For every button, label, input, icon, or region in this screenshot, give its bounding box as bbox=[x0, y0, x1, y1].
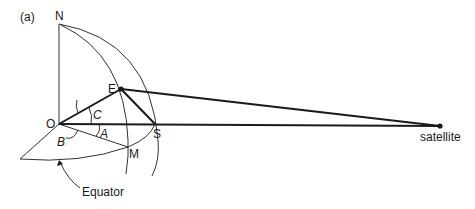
label-angle-A: A bbox=[99, 127, 108, 141]
label-N: N bbox=[55, 9, 64, 23]
geometry-diagram: (a) N E O S M satellite C A B Equator bbox=[0, 0, 475, 209]
angle-C-arc bbox=[76, 100, 78, 113]
label-M: M bbox=[129, 147, 139, 161]
line-OM bbox=[59, 124, 128, 147]
equator-pointer bbox=[60, 162, 80, 188]
label-equator: Equator bbox=[82, 185, 124, 199]
line-O-satellite bbox=[59, 124, 440, 126]
panel-label: (a) bbox=[20, 10, 35, 24]
label-E: E bbox=[108, 82, 116, 96]
inner-meridian-arc bbox=[61, 25, 128, 174]
label-O: O bbox=[46, 117, 55, 131]
label-satellite: satellite bbox=[420, 130, 461, 144]
line-E-satellite bbox=[121, 89, 440, 126]
satellite-dot bbox=[437, 123, 442, 128]
equator-arrowhead-icon bbox=[57, 160, 63, 166]
angle-C-arc-2 bbox=[89, 108, 92, 124]
label-angle-C: C bbox=[93, 108, 102, 122]
angle-B-arc bbox=[66, 130, 78, 138]
point-E-dot bbox=[118, 86, 123, 91]
label-S: S bbox=[153, 127, 161, 141]
label-angle-B: B bbox=[57, 135, 65, 149]
